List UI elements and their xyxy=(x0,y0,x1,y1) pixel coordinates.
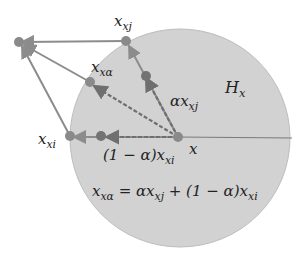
label-x-xj: xxj xyxy=(114,14,132,33)
label-x-xalpha: xxα xyxy=(91,60,113,79)
label-base: (1 − α)x xyxy=(103,146,165,164)
point-alpha-x-xj xyxy=(141,71,151,81)
label-sub: xα xyxy=(99,66,112,79)
label-base: x xyxy=(189,140,197,158)
label-x-xi: xxi xyxy=(38,132,56,151)
label-base: αx xyxy=(170,92,189,110)
halfspace-diagram: xxj xxα αxxj Hx xxi x (1 − α)xxi xxα = α… xyxy=(0,0,305,268)
eq-mid: = αx xyxy=(114,182,155,200)
label-one-minus-alpha-x-xi: (1 − α)xxi xyxy=(103,148,175,167)
label-x: x xyxy=(189,142,197,157)
label-halfspace: Hx xyxy=(225,80,245,100)
label-sub: x xyxy=(239,86,246,100)
label-sub: xi xyxy=(165,154,175,167)
point-one-minus-alpha-x-xi xyxy=(96,131,106,141)
point-sum xyxy=(14,37,24,47)
equation: xxα = αxxj + (1 − α)xxi xyxy=(92,184,258,203)
label-alpha-x-xj: αxxj xyxy=(170,94,198,113)
eq-rhs-sub: xi xyxy=(248,190,258,203)
label-sub: xj xyxy=(189,100,198,113)
label-sub: xj xyxy=(122,20,131,33)
label-base: H xyxy=(225,78,239,97)
eq-lhs-sub: xα xyxy=(100,190,113,203)
point-x-xj xyxy=(121,36,131,46)
point-x-xi xyxy=(65,131,75,141)
label-sub: xi xyxy=(46,138,56,151)
eq-mid-sub: xj xyxy=(155,190,164,203)
eq-rhs: + (1 − α)x xyxy=(164,182,248,200)
point-x xyxy=(173,132,183,142)
